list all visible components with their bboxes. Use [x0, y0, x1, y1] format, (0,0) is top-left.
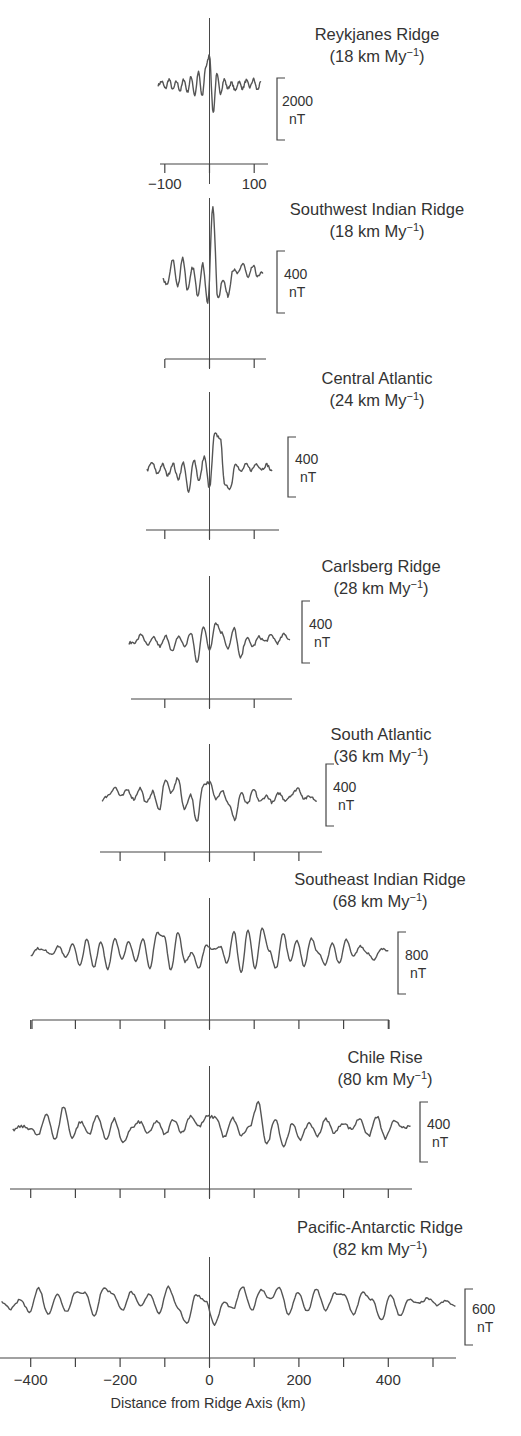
scale-bar-value: 400	[427, 1116, 451, 1132]
scale-bar-unit: nT	[432, 1134, 449, 1150]
anomaly-trace	[13, 1102, 411, 1147]
scale-bar-unit: nT	[289, 111, 306, 127]
spreading-rate-label: (36 km My−1)	[333, 746, 428, 765]
profile-carlsberg-ridge: Carlsberg Ridge(28 km My−1)400nT	[129, 557, 441, 709]
scale-bar-value: 800	[405, 947, 429, 963]
profile-title: Southwest Indian Ridge	[290, 200, 464, 218]
scale-bar-value: 600	[472, 1301, 496, 1317]
profile-title: Pacific-Antarctic Ridge	[297, 1218, 463, 1236]
scale-bar-unit: nT	[314, 634, 331, 650]
x-tick-label: −200	[103, 1371, 137, 1388]
profile-title: Reykjanes Ridge	[315, 25, 440, 43]
spreading-rate-label: (68 km My−1)	[332, 891, 427, 910]
x-axis-label: Distance from Ridge Axis (km)	[111, 1395, 306, 1411]
scale-bar-bracket	[420, 1102, 428, 1162]
scale-bar-value: 400	[284, 266, 308, 282]
scale-bar-value: 400	[309, 616, 333, 632]
scale-bar-value: 400	[333, 779, 357, 795]
profile-title: Southeast Indian Ridge	[294, 870, 466, 888]
scale-bar-bracket	[398, 932, 406, 994]
scale-bar-value: 400	[295, 451, 319, 467]
spreading-rate-label: (80 km My−1)	[337, 1069, 432, 1088]
profile-reykjanes-ridge: Reykjanes Ridge(18 km My−1)2000nT−100100	[148, 18, 439, 192]
tick-label: −100	[148, 175, 182, 192]
scale-bar-unit: nT	[410, 965, 427, 981]
x-tick-label: 400	[376, 1371, 401, 1388]
anomaly-trace	[163, 207, 264, 303]
profile-title: Central Atlantic	[322, 369, 433, 387]
scale-bar-value: 2000	[282, 93, 313, 109]
scale-bar-bracket	[326, 764, 334, 826]
profile-southwest-indian-ridge: Southwest Indian Ridge(18 km My−1)400nT	[163, 198, 465, 369]
scale-bar-unit: nT	[477, 1319, 494, 1335]
profile-pacific-antarctic-ridge: Pacific-Antarctic Ridge(82 km My−1)600nT	[0, 1218, 496, 1368]
profile-chile-rise: Chile Rise(80 km My−1)400nT	[10, 1048, 451, 1199]
scale-bar-bracket	[465, 1289, 473, 1345]
anomaly-trace	[2, 1286, 456, 1325]
profile-central-atlantic: Central Atlantic(24 km My−1)400nT	[146, 369, 432, 540]
spreading-rate-label: (18 km My−1)	[329, 46, 424, 65]
x-tick-label: −400	[14, 1371, 48, 1388]
spreading-rate-label: (28 km My−1)	[333, 578, 428, 597]
profile-title: Carlsberg Ridge	[321, 557, 440, 575]
x-tick-label: 0	[205, 1371, 213, 1388]
profile-southeast-indian-ridge: Southeast Indian Ridge(68 km My−1)800nT	[31, 870, 466, 1030]
spreading-rate-label: (82 km My−1)	[332, 1239, 427, 1258]
x-tick-label: 200	[286, 1371, 311, 1388]
tick-label: 100	[242, 175, 267, 192]
spreading-rate-label: (18 km My−1)	[329, 221, 424, 240]
scale-bar-bracket	[288, 437, 296, 497]
scale-bar-unit: nT	[338, 797, 355, 813]
scale-bar-bracket	[277, 78, 285, 140]
profile-title: Chile Rise	[347, 1048, 422, 1066]
scale-bar-unit: nT	[289, 284, 306, 300]
scale-bar-bracket	[277, 251, 285, 313]
scale-bar-unit: nT	[300, 469, 317, 485]
scale-bar-bracket	[302, 601, 310, 663]
profile-south-atlantic: South Atlantic(36 km My−1)400nT	[100, 725, 431, 862]
magnetic-profile-figure: Reykjanes Ridge(18 km My−1)2000nT−100100…	[0, 0, 521, 1436]
profile-title: South Atlantic	[331, 725, 432, 743]
spreading-rate-label: (24 km My−1)	[329, 390, 424, 409]
